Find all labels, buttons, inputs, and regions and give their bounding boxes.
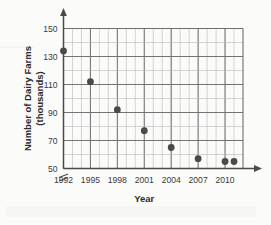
x-axis-tick-label: 1998 xyxy=(108,175,127,185)
y-axis-tick-label: 50 xyxy=(48,164,58,174)
x-axis-tick-label: 2001 xyxy=(135,175,154,185)
y-axis-tick-label: 130 xyxy=(43,52,58,62)
y-axis-tick-label: 70 xyxy=(48,136,58,146)
x-axis-tick-label: 1995 xyxy=(81,175,100,185)
data-point[interactable] xyxy=(60,48,67,55)
data-point[interactable] xyxy=(222,158,229,165)
y-axis-tick-label: 150 xyxy=(43,24,58,34)
data-point[interactable] xyxy=(168,144,175,151)
y-axis-tick-label: 90 xyxy=(48,108,58,118)
x-axis-tick-label: 1992 xyxy=(54,175,73,185)
y-axis-title-line2: (thousands) xyxy=(34,71,45,125)
y-axis-title-line1: Number of Dairy Farms xyxy=(22,46,33,151)
data-point[interactable] xyxy=(231,158,238,165)
x-axis-tick-label: 2004 xyxy=(162,175,181,185)
x-axis-title: Year xyxy=(134,193,154,204)
dairy-farms-scatter-chart: 5070901101301501992199519982001200420072… xyxy=(0,0,271,225)
x-axis-tick-label: 2010 xyxy=(215,175,234,185)
data-point[interactable] xyxy=(195,155,202,162)
x-axis-tick-label: 2007 xyxy=(189,175,208,185)
y-axis-tick-label: 110 xyxy=(44,80,58,90)
data-point[interactable] xyxy=(141,127,148,134)
data-point[interactable] xyxy=(87,78,94,85)
data-point[interactable] xyxy=(114,106,121,113)
y-axis-arrow-icon xyxy=(60,8,67,16)
x-axis-arrow-icon xyxy=(254,165,262,172)
plot-area: 5070901101301501992199519982001200420072… xyxy=(0,0,271,225)
